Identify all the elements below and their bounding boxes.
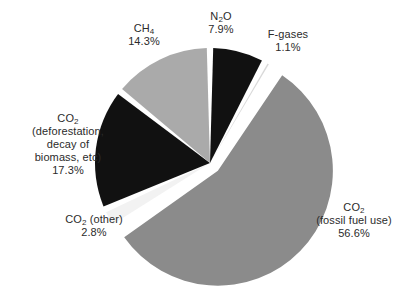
pie-label-ch4-name: CH4 bbox=[114, 22, 174, 35]
subscript: 2 bbox=[218, 15, 223, 24]
pie-label-n2o: N2O 7.9% bbox=[192, 10, 250, 36]
pie-label-co2-fossil-fuel-percent: 56.6% bbox=[310, 227, 398, 240]
subscript: 4 bbox=[150, 27, 155, 36]
pie-slices bbox=[95, 48, 333, 286]
subscript: 2 bbox=[74, 117, 79, 126]
pie-label-fgases-name: F-gases bbox=[254, 28, 322, 41]
pie-label-ch4: CH4 14.3% bbox=[114, 22, 174, 48]
pie-chart-figure: N2O 7.9% F-gases 1.1% CH4 14.3% CO2 (def… bbox=[0, 0, 402, 287]
pie-label-co2-other-name: CO2 (other) bbox=[42, 213, 146, 226]
pie-label-co2-deforestation-line3: decay of bbox=[14, 138, 122, 151]
pie-label-co2-fossil-fuel-line2: (fossil fuel use) bbox=[310, 214, 398, 227]
pie-label-co2-other-percent: 2.8% bbox=[42, 226, 146, 239]
pie-label-n2o-name: N2O bbox=[192, 10, 250, 23]
subscript: 2 bbox=[360, 206, 365, 215]
pie-label-co2-deforestation-name: CO2 bbox=[14, 112, 122, 125]
pie-label-fgases: F-gases 1.1% bbox=[254, 28, 322, 54]
pie-label-co2-deforestation-line2: (deforestation, bbox=[14, 125, 122, 138]
pie-label-ch4-percent: 14.3% bbox=[114, 35, 174, 48]
pie-label-n2o-percent: 7.9% bbox=[192, 23, 250, 36]
pie-label-co2-other: CO2 (other) 2.8% bbox=[42, 213, 146, 239]
subscript: 2 bbox=[82, 218, 87, 227]
pie-label-fgases-percent: 1.1% bbox=[254, 41, 322, 54]
pie-label-co2-deforestation-percent: 17.3% bbox=[14, 164, 122, 177]
pie-label-co2-fossil-fuel: CO2 (fossil fuel use) 56.6% bbox=[310, 201, 398, 240]
pie-label-co2-deforestation-line4: biomass, etc) bbox=[14, 151, 122, 164]
pie-label-co2-fossil-fuel-name: CO2 bbox=[310, 201, 398, 214]
pie-label-co2-deforestation: CO2 (deforestation, decay of biomass, et… bbox=[14, 112, 122, 177]
